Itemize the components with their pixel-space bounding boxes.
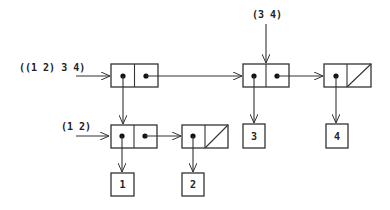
svg-text:1: 1 [119, 179, 125, 190]
atom-2: 2 [182, 173, 204, 196]
atom-3: 3 [243, 124, 265, 148]
box-pointer-diagram: ((1 2) 3 4) (3 4) (1 2) [0, 0, 390, 210]
svg-text:3: 3 [251, 131, 257, 142]
svg-text:2: 2 [190, 179, 196, 190]
label-inner-list: (1 2) [61, 121, 91, 132]
cons-cell-3 [324, 64, 371, 87]
label-tail-list: (3 4) [252, 9, 282, 20]
label-outer-list: ((1 2) 3 4) [19, 62, 85, 73]
atom-1: 1 [111, 173, 134, 196]
atom-4: 4 [326, 124, 348, 148]
cons-cell-5 [182, 125, 228, 148]
svg-text:4: 4 [334, 131, 340, 142]
